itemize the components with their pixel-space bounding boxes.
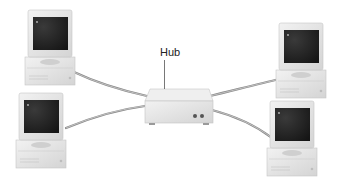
computer-bottom-left-icon	[16, 93, 66, 168]
cable-bottom-left	[66, 106, 145, 128]
hub-icon	[145, 89, 213, 125]
hub-label: Hub	[160, 46, 180, 58]
computer-top-left-icon	[25, 10, 75, 85]
cable-top-left	[74, 72, 147, 96]
computer-top-right-icon	[276, 23, 326, 98]
network-diagram	[0, 0, 345, 182]
cable-bottom-right	[212, 110, 272, 138]
computer-bottom-right-icon	[267, 101, 317, 176]
